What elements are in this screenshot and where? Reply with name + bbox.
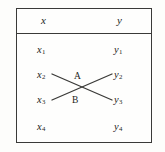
header-divider [16, 33, 152, 34]
mapping-diagram-figure: x y x1 x2 x3 x4 y1 y2 y3 y4 A B [0, 0, 165, 152]
element-x3: x3 [37, 95, 45, 106]
column-header-x: x [41, 15, 46, 26]
element-y4-base: y [114, 121, 119, 132]
element-y1: y1 [114, 45, 122, 56]
element-y3-base: y [114, 94, 119, 105]
element-x2-base: x [37, 69, 42, 80]
element-x1-base: x [37, 44, 42, 55]
annotation-label-b: B [72, 96, 78, 106]
column-header-y-label: y [117, 14, 122, 26]
element-y3: y3 [114, 95, 122, 106]
column-header-y: y [117, 15, 122, 26]
element-y2: y2 [114, 70, 122, 81]
element-x4-subscript: 4 [42, 125, 45, 132]
element-x2: x2 [37, 70, 45, 81]
element-x4: x4 [37, 122, 45, 133]
element-x3-base: x [37, 94, 42, 105]
element-y3-subscript: 3 [119, 98, 122, 105]
element-y1-base: y [114, 44, 119, 55]
element-x4-base: x [37, 121, 42, 132]
element-y2-subscript: 2 [119, 73, 122, 80]
element-x1: x1 [37, 45, 45, 56]
element-y1-subscript: 1 [119, 48, 122, 55]
element-y4-subscript: 4 [119, 125, 122, 132]
element-y2-base: y [114, 69, 119, 80]
element-x3-subscript: 3 [42, 98, 45, 105]
element-x2-subscript: 2 [42, 73, 45, 80]
element-y4: y4 [114, 122, 122, 133]
annotation-label-a: A [74, 72, 81, 82]
element-x1-subscript: 1 [42, 48, 45, 55]
column-header-x-label: x [41, 14, 46, 26]
